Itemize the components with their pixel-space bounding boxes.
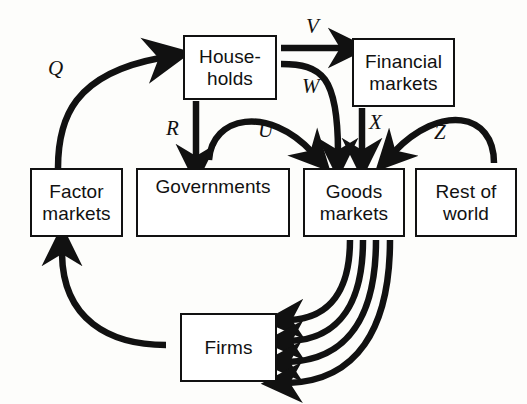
edge-label-z: Z: [434, 120, 446, 145]
node-rest-of-world-label: Rest of world: [436, 181, 497, 224]
node-financial-markets[interactable]: Financial markets: [352, 38, 455, 107]
node-factor-markets[interactable]: Factor markets: [30, 168, 123, 237]
edge-label-q: Q: [48, 56, 63, 81]
edge-label-u: U: [258, 118, 273, 143]
node-firms-label: Firms: [205, 337, 253, 358]
node-households-label: House- holds: [199, 46, 261, 89]
node-goods-markets[interactable]: Goods markets: [303, 168, 405, 237]
node-governments-label: Governments: [155, 176, 270, 197]
arrow-factor-markets-to-households: [58, 58, 160, 168]
edge-label-w: W: [302, 74, 320, 99]
edge-label-x: X: [369, 110, 382, 135]
node-goods-markets-label: Goods markets: [320, 181, 388, 224]
node-rest-of-world[interactable]: Rest of world: [415, 168, 517, 237]
edge-label-r: R: [166, 116, 179, 141]
node-factor-markets-label: Factor markets: [42, 181, 110, 224]
edge-label-v: V: [306, 14, 319, 39]
arrow-firms-to-factor-markets: [62, 252, 166, 345]
arrow-goods-markets-to-firms-1: [290, 240, 350, 320]
node-households[interactable]: House- holds: [183, 35, 277, 100]
node-firms[interactable]: Firms: [180, 313, 277, 382]
node-financial-markets-label: Financial markets: [365, 51, 442, 94]
circular-flow-diagram: House- holds Financial markets Factor ma…: [0, 0, 527, 404]
node-governments[interactable]: Governments: [136, 168, 290, 237]
